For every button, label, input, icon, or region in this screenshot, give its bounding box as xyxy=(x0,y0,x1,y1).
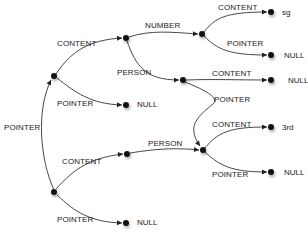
node-d xyxy=(180,77,186,83)
edge-e-content-3rd xyxy=(205,127,267,148)
edge-label-a-pointer: POINTER xyxy=(57,100,93,108)
edge-label-root-pointer: POINTER xyxy=(4,124,40,132)
node-a xyxy=(51,73,57,79)
edge-b-number-c xyxy=(129,32,198,37)
edge-label-c-content: CONTENT xyxy=(218,4,257,12)
node-label-c-null: NULL xyxy=(284,52,304,60)
edge-label-b-person: PERSON xyxy=(117,69,151,77)
node-label-a-null: NULL xyxy=(137,101,157,109)
node-root-null xyxy=(123,220,129,226)
node-f xyxy=(124,151,130,157)
edge-label-d-pointer: POINTER xyxy=(214,96,250,104)
edge-root-pointer-a xyxy=(41,80,54,190)
node-a-null xyxy=(123,102,129,108)
edge-label-a-content: CONTENT xyxy=(57,40,96,48)
node-c-sg xyxy=(268,9,274,15)
node-label-e-null: NULL xyxy=(284,169,304,177)
edge-label-f-person: PERSON xyxy=(148,140,182,148)
edge-label-b-number: NUMBER xyxy=(145,22,180,30)
node-label-root-null: NULL xyxy=(137,219,157,227)
node-e-3rd xyxy=(268,124,274,130)
node-b xyxy=(123,35,129,41)
node-e-null xyxy=(268,169,274,175)
node-c xyxy=(199,31,205,37)
edge-label-d-content: CONTENT xyxy=(212,70,251,78)
node-root xyxy=(51,189,57,195)
edge-e-pointer-null xyxy=(205,152,267,172)
node-label-e-3rd: 3rd xyxy=(282,124,294,132)
node-e xyxy=(200,147,206,153)
node-label-c-sg: sg xyxy=(282,9,290,17)
edge-label-root-content: CONTENT xyxy=(62,158,101,166)
node-label-d-null: NULL xyxy=(288,77,308,85)
edge-label-root-pointer-bottom: POINTER xyxy=(57,216,93,224)
edge-label-e-pointer: POINTER xyxy=(212,171,248,179)
edge-f-person-e xyxy=(130,149,199,153)
node-c-null xyxy=(268,52,274,58)
node-d-null xyxy=(268,77,274,83)
edge-label-c-pointer: POINTER xyxy=(227,40,263,48)
edge-d-pointer-e xyxy=(185,82,215,146)
edge-c-content-sg xyxy=(204,12,267,32)
edge-label-e-content: CONTENT xyxy=(212,121,251,129)
diagram-canvas xyxy=(0,0,308,234)
